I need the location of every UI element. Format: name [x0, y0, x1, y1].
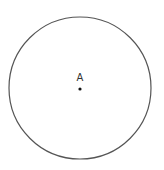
- point-a-label: A: [77, 72, 84, 83]
- point-a-dot: [78, 87, 81, 90]
- diagram-canvas: A: [0, 0, 164, 170]
